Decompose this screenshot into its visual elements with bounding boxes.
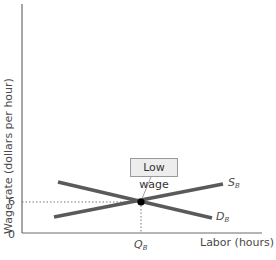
y-tick-0: 0 <box>8 228 15 241</box>
equilibrium-point <box>137 198 144 205</box>
x-axis-label: Labor (hours) <box>200 236 274 249</box>
supply-label-sub: B <box>235 182 240 190</box>
qb-sub: B <box>143 244 148 252</box>
qb-main: Q <box>134 238 143 251</box>
y-tick-6: 6 <box>8 195 15 208</box>
demand-label-sub: B <box>224 216 229 224</box>
labor-market-chart <box>0 0 276 260</box>
y-axis-label: Wage rate (dollars per hour) <box>2 78 15 234</box>
demand-curve-label: DB <box>216 210 229 224</box>
supply-curve-label: SB <box>228 176 240 190</box>
x-tick-qb: QB <box>134 238 147 252</box>
low-wage-callout: Low wage <box>130 158 178 177</box>
supply-label-main: S <box>228 176 235 189</box>
